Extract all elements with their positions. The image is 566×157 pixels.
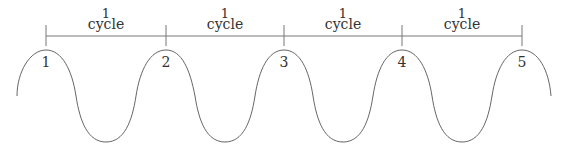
cycle-label-word: cycle <box>207 16 243 32</box>
cycle-label-1: 1 cycle <box>88 6 124 32</box>
point-label-5: 5 <box>518 54 527 70</box>
point-label-1: 1 <box>42 54 51 70</box>
cycle-label-word: cycle <box>325 16 361 32</box>
cycle-label-3: 1 cycle <box>325 6 361 32</box>
point-label-4: 4 <box>398 54 407 70</box>
cycle-label-word: cycle <box>88 16 124 32</box>
wave-cycle-diagram: 1 cycle 1 cycle 1 cycle 1 cycle 1 2 3 4 … <box>0 0 566 157</box>
cycle-label-4: 1 cycle <box>444 6 480 32</box>
cycle-label-word: cycle <box>444 16 480 32</box>
point-label-2: 2 <box>162 54 171 70</box>
cycle-label-2: 1 cycle <box>207 6 243 32</box>
point-label-3: 3 <box>280 54 289 70</box>
